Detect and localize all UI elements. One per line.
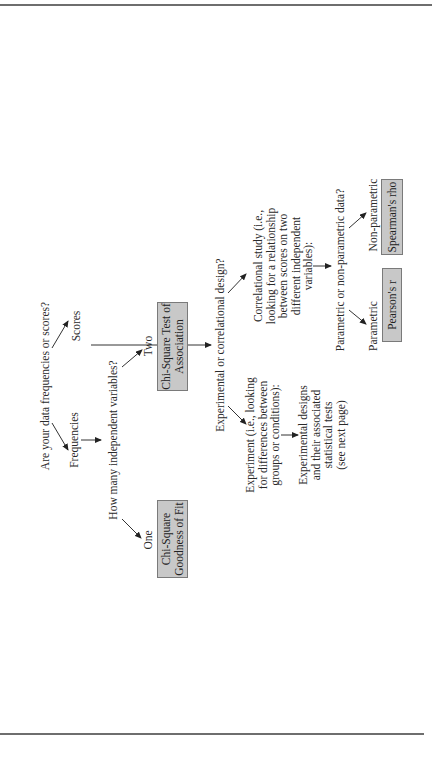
- box-line: Association: [173, 303, 186, 390]
- text-line: for differences between: [257, 377, 270, 492]
- text-line: and their associated: [310, 385, 323, 484]
- arrow-question-to-parametric: [349, 310, 366, 324]
- parametric-question: Parametric or non-parametric data?: [334, 189, 347, 352]
- spearmans-rho-box: Spearman's rho: [381, 179, 403, 255]
- arrow-design-to-correlational: [228, 274, 246, 293]
- text-line: Experimental designs: [297, 385, 310, 484]
- nonparametric-label: Non-parametric: [367, 179, 380, 252]
- option-one-label: One: [142, 530, 155, 549]
- arrow-root-to-frequencies: [52, 423, 68, 450]
- text-line: statistical tests: [322, 385, 335, 484]
- arrow-root-to-scores: [52, 321, 68, 348]
- experimental-designs-note: Experimental designs and their associate…: [297, 385, 347, 484]
- text-line: between scores on two: [277, 208, 290, 325]
- box-line: Chi-Square Test of: [160, 303, 173, 390]
- text-line: looking for a relationship: [264, 208, 277, 325]
- text-line: variables):: [302, 208, 315, 325]
- text-line: groups or conditions):: [269, 377, 282, 492]
- independent-variables-question: How many independent variables?: [107, 360, 120, 519]
- text-line: Experiment (i.e., looking: [244, 377, 257, 492]
- box-line: Goodness of Fit: [173, 502, 186, 575]
- arrow-question-to-nonparametric: [349, 213, 366, 228]
- arrow-question-to-two: [122, 350, 142, 367]
- text-line: (see next page): [335, 385, 348, 484]
- option-two-label: Two: [142, 336, 155, 356]
- design-question: Experimental or correlational design?: [214, 258, 227, 431]
- frequencies-label: Frequencies: [68, 412, 81, 468]
- parametric-label: Parametric: [367, 301, 380, 351]
- root-question: Are your data frequencies or scores?: [39, 302, 52, 470]
- chi-square-test-of-association-box: Chi-Square Test of Association: [157, 302, 188, 391]
- experiment-description: Experiment (i.e., looking for difference…: [244, 377, 282, 492]
- text-line: Correlational study (i.e.,: [252, 208, 265, 325]
- correlational-description: Correlational study (i.e., looking for a…: [252, 208, 315, 325]
- box-line: Chi-Square: [160, 502, 173, 575]
- flowchart: Are your data frequencies or scores? Fre…: [0, 0, 438, 758]
- scores-label: Scores: [70, 311, 83, 342]
- arrow-question-to-one: [122, 519, 141, 538]
- text-line: different independent: [289, 208, 302, 325]
- pearsons-r-box: Pearson's r: [382, 268, 402, 342]
- chi-square-goodness-of-fit-box: Chi-Square Goodness of Fit: [157, 500, 188, 578]
